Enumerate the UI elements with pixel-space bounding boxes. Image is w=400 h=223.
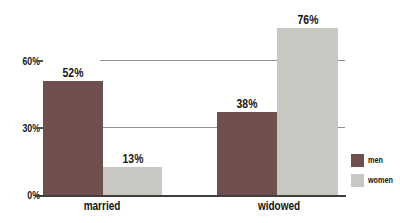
legend-label-men: men	[368, 156, 383, 165]
bar-married-women: 13%	[103, 167, 162, 196]
x-axis-line	[35, 195, 346, 197]
bar-widowed-women: 76%	[277, 28, 338, 196]
bar-widowed-men: 38%	[217, 112, 277, 196]
x-category-label-married: married	[84, 200, 121, 213]
legend-label-women: women	[368, 176, 393, 185]
bar-married-men: 52%	[43, 81, 103, 196]
bar-value-label: 13%	[122, 152, 143, 165]
bar-value-label: 38%	[237, 97, 258, 110]
y-tick-30pct	[36, 127, 43, 129]
y-tick-60pct	[36, 60, 43, 62]
bar-value-label: 76%	[297, 13, 318, 26]
legend-swatch-men	[351, 154, 364, 167]
x-category-label-widowed: widowed	[258, 200, 300, 213]
legend-swatch-women	[351, 174, 364, 187]
bar-value-label: 52%	[63, 66, 84, 79]
grouped-bar-chart: 60% 30% 0% 52% 13% 38% 76% married widow…	[0, 0, 400, 223]
